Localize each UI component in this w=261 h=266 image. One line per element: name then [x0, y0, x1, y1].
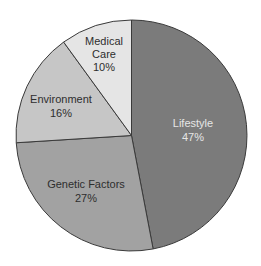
- slice-label-lifestyle: Lifestyle: [173, 117, 213, 129]
- slice-value-lifestyle: 47%: [182, 131, 204, 143]
- slice-label-genetic-factors: Genetic Factors: [47, 178, 125, 190]
- pie-chart: Lifestyle 47% Genetic Factors 27% Enviro…: [0, 0, 261, 266]
- slice-value-environment: 16%: [50, 107, 72, 119]
- slice-label-medical-care-line1: Medical: [85, 35, 123, 47]
- pie-slices: [16, 20, 247, 251]
- slice-label-environment: Environment: [30, 93, 92, 105]
- slice-label-medical-care-line2: Care: [92, 48, 116, 60]
- slice-value-genetic-factors: 27%: [75, 192, 97, 204]
- slice-value-medical-care: 10%: [93, 61, 115, 73]
